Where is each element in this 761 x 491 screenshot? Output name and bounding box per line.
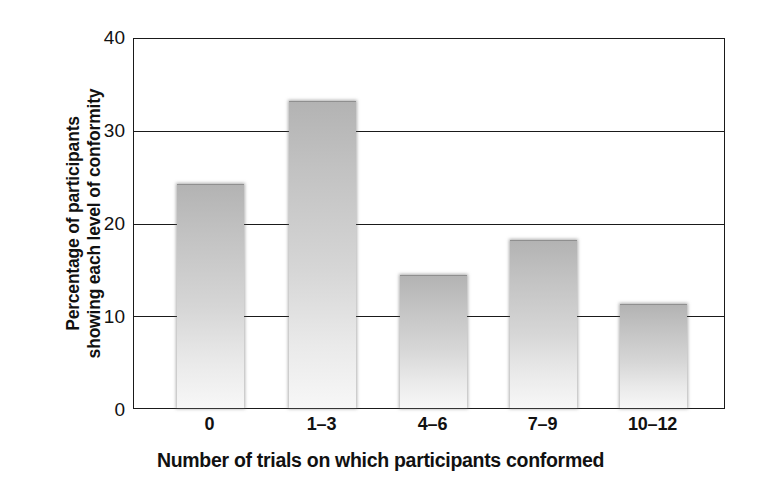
bar-category-4-6 — [400, 275, 467, 408]
bar-category-7-9 — [510, 240, 577, 408]
x-axis-tick-labels: 0 1–3 4–6 7–9 10–12 — [133, 414, 725, 440]
x-axis-title: Number of trials on which participants c… — [0, 449, 761, 472]
x-tick-label-1-3: 1–3 — [278, 414, 365, 436]
bar-category-10-12 — [620, 304, 687, 408]
y-tick-label-0: 0 — [81, 400, 125, 419]
plot-area — [133, 38, 725, 409]
x-tick-label-4-6: 4–6 — [389, 414, 476, 436]
y-axis-tick-labels: 40 30 20 10 0 — [77, 0, 125, 491]
x-tick-label-10-12: 10–12 — [609, 414, 696, 436]
y-tick-label-40: 40 — [81, 28, 125, 47]
x-tick-label-0: 0 — [166, 414, 253, 436]
y-tick-label-10: 10 — [81, 307, 125, 326]
gridline-30 — [134, 131, 724, 132]
bar-category-0 — [177, 184, 244, 408]
bar-category-1-3 — [289, 101, 356, 408]
x-tick-label-7-9: 7–9 — [499, 414, 586, 436]
y-tick-label-30: 30 — [81, 121, 125, 140]
bar-chart-figure: Percentage of participants showing each … — [0, 0, 761, 491]
y-tick-label-20: 20 — [81, 214, 125, 233]
